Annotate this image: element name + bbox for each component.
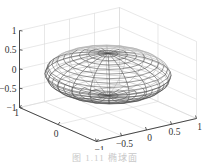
- mesh-segment: [129, 82, 137, 85]
- mesh-segment: [127, 55, 128, 57]
- grid-lines: [20, 8, 197, 142]
- mesh-segment: [92, 78, 93, 82]
- mesh-segment: [79, 90, 80, 93]
- mesh-segment: [125, 63, 130, 67]
- mesh-segment: [97, 98, 102, 100]
- z-tick: [20, 88, 23, 89]
- mesh-segment: [114, 89, 120, 90]
- mesh-segment: [139, 76, 142, 80]
- mesh-segment: [116, 91, 124, 94]
- mesh-segment: [52, 64, 55, 70]
- mesh-segment: [92, 49, 96, 50]
- mesh-segment: [125, 59, 126, 63]
- mesh-segment: [89, 94, 99, 95]
- mesh-segment: [79, 61, 86, 64]
- mesh-segment: [114, 49, 119, 51]
- mesh-segment: [70, 55, 87, 58]
- mesh-segment: [144, 61, 151, 64]
- mesh-segment: [98, 84, 101, 88]
- mesh-segment: [100, 60, 103, 64]
- mesh-segment: [51, 73, 60, 79]
- mesh-segment: [119, 86, 124, 90]
- mesh-segment: [56, 62, 57, 65]
- mesh-segment: [98, 64, 100, 68]
- x-tick-label: 1: [14, 108, 19, 118]
- mesh-segment: [110, 91, 129, 92]
- mesh-segment: [79, 71, 83, 75]
- mesh-segment: [87, 67, 97, 69]
- mesh-segment: [59, 83, 73, 88]
- mesh-segment: [122, 67, 123, 71]
- mesh-segment: [127, 80, 142, 82]
- mesh-segment: [126, 91, 135, 93]
- mesh-segment: [77, 82, 85, 85]
- mesh-segment: [102, 57, 105, 61]
- ellipsoid-3d-plot: 10.50−0.5−110−1−0.500.51: [0, 0, 210, 150]
- mesh-segment: [129, 92, 146, 95]
- mesh-segment: [110, 82, 127, 83]
- z-tick: [20, 31, 23, 32]
- axes: [20, 31, 197, 142]
- mesh-segment: [118, 95, 128, 96]
- mesh-segment: [90, 56, 93, 58]
- figure-caption: 图 1.11 椭球面: [0, 151, 210, 164]
- y-tick-label: 0: [147, 133, 152, 143]
- mesh-segment: [84, 50, 92, 51]
- z-tick-label: 0.5: [5, 45, 17, 55]
- mesh-segment: [120, 99, 124, 100]
- z-tick-label: 1: [12, 26, 17, 36]
- mesh-segment: [90, 86, 91, 90]
- mesh-segment: [85, 82, 90, 86]
- mesh-segment: [71, 53, 73, 57]
- mesh-segment: [93, 75, 107, 76]
- mesh-segment: [143, 88, 145, 92]
- mesh-segment: [165, 63, 168, 69]
- mesh-segment: [111, 57, 114, 61]
- mesh-segment: [159, 84, 160, 87]
- mesh-segment: [49, 77, 50, 80]
- mesh-segment: [165, 76, 168, 82]
- y-tick-label: −1: [94, 145, 104, 151]
- mesh-segment: [73, 61, 79, 64]
- mesh-segment: [123, 73, 125, 78]
- mesh-segment: [98, 69, 110, 70]
- mesh-segment: [107, 84, 116, 85]
- mesh-segment: [91, 70, 107, 71]
- mesh-segment: [135, 56, 136, 59]
- z-tick-label: −0.5: [0, 84, 17, 94]
- mesh-segment: [158, 75, 166, 80]
- mesh-segment: [100, 64, 109, 65]
- mesh-segment: [107, 80, 119, 81]
- mesh-segment: [131, 65, 139, 68]
- mesh-segment: [48, 67, 51, 73]
- mesh-segment: [97, 59, 103, 60]
- mesh-segment: [156, 70, 165, 76]
- mesh-segment: [110, 100, 128, 101]
- y-tick-label: 0.5: [169, 127, 181, 137]
- mesh-segment: [92, 63, 100, 64]
- mesh-segment: [95, 73, 109, 74]
- mesh-segment: [109, 73, 123, 74]
- mesh-segment: [89, 53, 99, 54]
- mesh-segment: [111, 89, 114, 93]
- mesh-segment: [170, 72, 171, 75]
- mesh-segment: [74, 69, 77, 73]
- mesh-segment: [107, 75, 121, 76]
- mesh-segment: [101, 89, 104, 93]
- mesh-segment: [124, 99, 132, 100]
- y-tick-label: −0.5: [116, 139, 133, 149]
- mesh-segment: [93, 55, 101, 58]
- mesh-segment: [118, 80, 128, 82]
- z-tick: [20, 69, 23, 70]
- ellipsoid-mesh: [45, 45, 171, 104]
- mesh-segment: [156, 82, 159, 87]
- mesh-segment: [142, 76, 154, 80]
- mesh-segment: [139, 72, 150, 76]
- mesh-segment: [133, 74, 137, 78]
- mesh-segment: [139, 65, 145, 69]
- mesh-segment: [168, 78, 169, 81]
- mesh-segment: [62, 69, 74, 73]
- mesh-segment: [45, 71, 46, 74]
- y-tick-label: 1: [197, 122, 202, 132]
- mesh-segment: [79, 64, 87, 67]
